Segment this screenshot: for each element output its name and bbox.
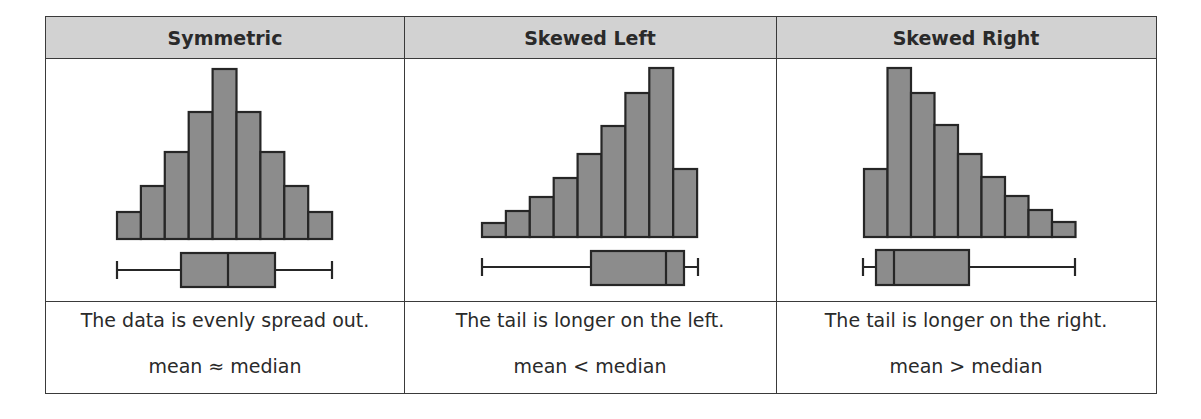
histogram-bar [673,169,697,237]
histogram-bar [237,112,261,239]
histogram-bar [935,125,959,237]
histogram-bar [982,177,1006,237]
symmetric-boxplot [117,253,332,287]
histogram-bar [911,93,935,237]
histogram-bar [482,223,506,237]
histogram-bar [530,197,554,237]
histogram-bar [1029,210,1053,237]
histogram-bar [260,152,284,239]
histogram-bar [284,186,308,239]
histogram-bar [308,212,332,239]
histogram-bar [165,152,189,239]
iqr-box [591,251,684,285]
histogram-bar [649,68,673,237]
histogram-bar [625,93,649,237]
skewed-right-boxplot [863,250,1075,285]
histogram-bar [213,69,237,239]
histogram-bar [1052,222,1076,237]
histogram-bar [554,178,578,237]
iqr-box [876,250,969,285]
skewed-left-boxplot [482,251,698,285]
histogram-bar [864,169,888,237]
symmetric-histogram [117,69,332,239]
histogram-bar [506,211,530,237]
histogram-bar [602,126,626,237]
histogram-bar [888,68,912,237]
skewed-left-histogram [482,68,697,237]
histogram-bar [1005,196,1029,237]
histogram-bar [141,186,165,239]
histogram-bar [117,212,141,239]
histogram-bar [189,112,213,239]
histogram-bar [958,154,982,237]
histogram-bar [578,154,602,237]
histograms-and-boxplots [0,0,1201,419]
skewed-right-histogram [864,68,1076,237]
